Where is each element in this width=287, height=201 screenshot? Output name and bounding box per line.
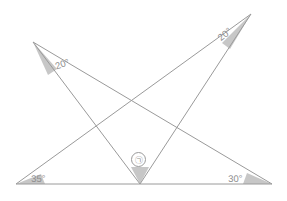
geometry-figure: 20° 20° 35° 30° ㉠ (0, 0, 287, 201)
segment-upper-right-to-center (140, 14, 251, 184)
angle-wedge-bottom-right (243, 173, 272, 184)
geometry-canvas (0, 0, 287, 201)
angle-label-center-marker: ㉠ (131, 152, 146, 167)
angle-label-bottom-right: 30° (228, 174, 243, 184)
angle-label-bottom-left: 35° (31, 174, 46, 184)
segment-upper-left-to-center (33, 42, 140, 184)
